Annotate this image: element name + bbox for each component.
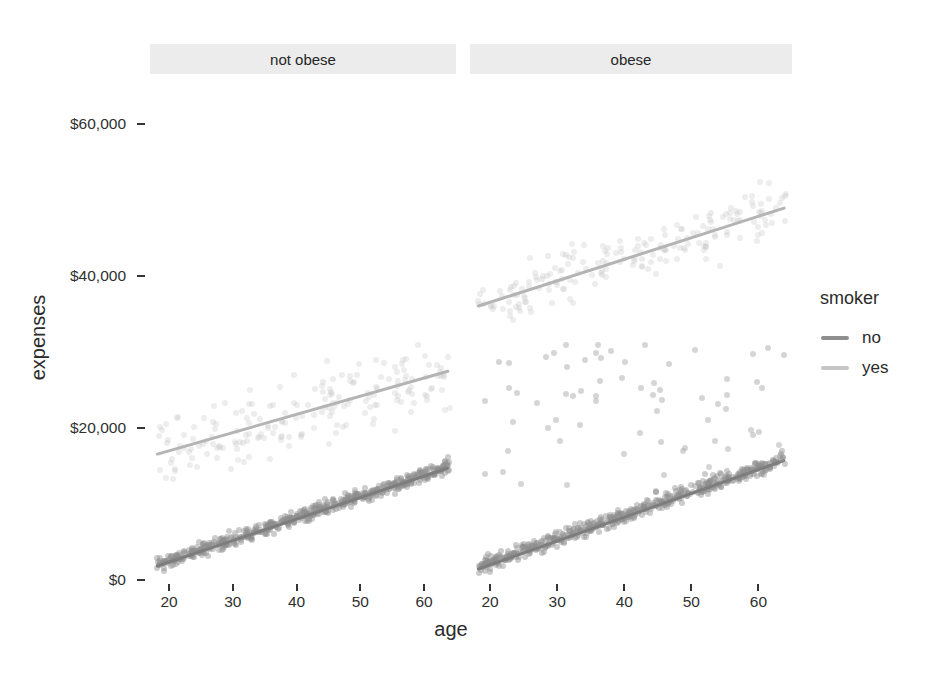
x-axis-tick-label: 50 (340, 593, 380, 611)
data-point (766, 180, 772, 186)
data-point (322, 396, 328, 402)
data-point (311, 412, 317, 418)
data-point (758, 201, 764, 207)
data-point (724, 232, 730, 238)
data-point (777, 200, 783, 206)
data-point (592, 281, 598, 287)
data-point (409, 391, 415, 397)
data-point-outlier (598, 355, 604, 361)
data-point (381, 360, 387, 366)
data-point (643, 242, 649, 248)
data-point (650, 252, 656, 258)
data-point-outlier (564, 482, 570, 488)
data-point-outlier (564, 364, 570, 370)
data-point-outlier (506, 360, 512, 366)
data-point (703, 244, 709, 250)
data-point-outlier (482, 471, 488, 477)
data-point (327, 392, 333, 398)
x-axis-title: age (0, 618, 902, 641)
data-point-outlier (577, 422, 583, 428)
data-point (749, 193, 755, 199)
data-point (717, 263, 723, 269)
data-point (603, 274, 609, 280)
data-point-outlier (680, 448, 686, 454)
data-point (279, 433, 285, 439)
legend-item-label: yes (862, 358, 888, 378)
data-point-outlier (748, 427, 754, 433)
x-axis-tick-mark (757, 584, 759, 591)
data-point (159, 427, 165, 433)
data-point (755, 232, 761, 238)
panel-obese (470, 78, 792, 580)
data-point (267, 456, 273, 462)
data-point (685, 241, 691, 247)
x-axis-tick-label: 60 (738, 593, 778, 611)
data-point (755, 224, 761, 230)
data-point-outlier (621, 451, 627, 457)
data-point (286, 434, 292, 440)
data-point (354, 372, 360, 378)
data-point (648, 236, 654, 242)
data-point (416, 480, 422, 486)
data-point (247, 387, 253, 393)
data-point (527, 255, 533, 261)
x-axis-tick-label: 30 (213, 593, 253, 611)
x-axis-tick-label: 20 (470, 593, 510, 611)
data-point (194, 464, 200, 470)
data-point (572, 521, 578, 527)
data-point (415, 342, 421, 348)
data-point (742, 194, 748, 200)
data-point (319, 409, 325, 415)
data-point-outlier (651, 380, 657, 386)
data-point (181, 432, 187, 438)
legend: smoker noyes (820, 288, 888, 383)
data-point (569, 241, 575, 247)
y-axis-tick-mark (137, 123, 145, 125)
data-point-outlier (754, 379, 760, 385)
x-axis-tick-mark (556, 584, 558, 591)
data-point (239, 408, 245, 414)
data-point-outlier (692, 347, 698, 353)
data-point (211, 403, 217, 409)
data-point (156, 433, 162, 439)
data-point (500, 563, 506, 569)
data-point (539, 550, 545, 556)
data-point (217, 444, 223, 450)
data-point (395, 393, 401, 399)
data-point-outlier (608, 348, 614, 354)
data-point (163, 421, 169, 427)
data-point (426, 362, 432, 368)
y-axis-tick-label: $0 (0, 571, 126, 589)
data-point-outlier (638, 385, 644, 391)
data-point-outlier (761, 472, 767, 478)
data-point-outlier (510, 419, 516, 425)
data-point (639, 264, 645, 270)
data-point (523, 299, 529, 305)
data-point (378, 374, 384, 380)
data-point-outlier (500, 469, 506, 475)
data-point (645, 266, 651, 272)
data-point (373, 357, 379, 363)
data-point-outlier (657, 387, 663, 393)
legend-item-no[interactable]: no (820, 323, 888, 353)
data-point (291, 372, 297, 378)
data-point-outlier (545, 425, 551, 431)
data-point (707, 217, 713, 223)
data-point (727, 216, 733, 222)
data-point (766, 196, 772, 202)
data-point (272, 424, 278, 430)
data-point (662, 232, 668, 238)
legend-item-yes[interactable]: yes (820, 353, 888, 383)
trend-line (476, 458, 786, 570)
data-point (319, 383, 325, 389)
data-point-outlier (723, 406, 729, 412)
data-point (392, 491, 398, 497)
data-point (702, 471, 708, 477)
data-point (528, 309, 534, 315)
data-point-outlier (563, 391, 569, 397)
data-point-outlier (658, 439, 664, 445)
data-point (581, 242, 587, 248)
data-point (408, 409, 414, 415)
data-point-outlier (597, 378, 603, 384)
data-point (246, 454, 252, 460)
